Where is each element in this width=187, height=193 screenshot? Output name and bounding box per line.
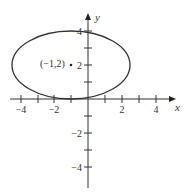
center-point [70, 64, 73, 67]
x-tick-label: −4 [16, 104, 27, 115]
center-label: (−1,2) [40, 58, 65, 70]
x-axis-label: x [174, 101, 180, 113]
x-tick-label: 2 [120, 104, 125, 115]
x-tick-label: −2 [49, 104, 60, 115]
ellipse-diagram: y x −4 −2 2 4 4 2 −2 −4 (−1,2) [0, 0, 187, 193]
coordinate-plane: y x −4 −2 2 4 4 2 −2 −4 (−1,2) [0, 0, 187, 193]
y-tick-label: 4 [77, 26, 82, 37]
y-tick-label: 2 [77, 60, 82, 71]
y-axis-label: y [94, 11, 100, 23]
y-tick-label: −4 [71, 162, 82, 173]
y-tick-label: −2 [71, 128, 82, 139]
y-axis-arrow-icon [85, 13, 91, 20]
x-tick-label: 4 [154, 104, 159, 115]
